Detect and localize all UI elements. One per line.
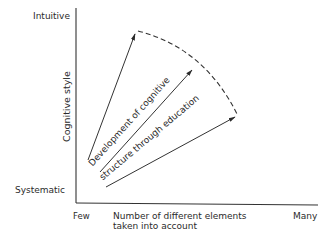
y-top-label: Intuitive xyxy=(33,11,70,21)
middle-arrow xyxy=(100,70,192,172)
x-right-label: Many xyxy=(293,211,317,221)
x-axis-title-line2: taken into account xyxy=(113,221,197,231)
x-axis-line xyxy=(76,203,318,205)
x-left-label: Few xyxy=(73,211,90,221)
y-axis-title: Cognitive style xyxy=(61,71,72,142)
y-bottom-label: Systematic xyxy=(15,185,65,195)
x-axis-title-line1: Number of different elements xyxy=(113,211,246,221)
